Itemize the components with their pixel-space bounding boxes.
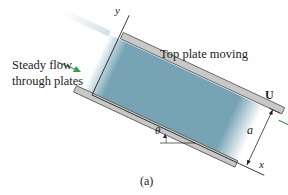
top-plate-label: Top plate moving xyxy=(160,48,248,61)
steady-flow-line2: through plates xyxy=(12,73,83,89)
x-axis-label: x xyxy=(259,159,264,170)
inflow-streak xyxy=(63,10,111,37)
angle-label: θ xyxy=(155,125,160,136)
steady-flow-line1: Steady flow xyxy=(12,57,83,73)
velocity-arrow xyxy=(279,120,288,131)
subfigure-caption: (a) xyxy=(140,175,153,187)
flow-between-plates-diagram xyxy=(0,0,288,195)
velocity-label: U xyxy=(265,89,274,101)
steady-flow-label: Steady flow through plates xyxy=(12,57,83,89)
y-axis-label: y xyxy=(115,5,120,16)
gap-label: a xyxy=(247,124,253,136)
